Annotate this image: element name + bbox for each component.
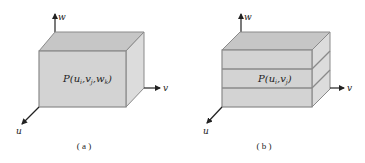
u-axis-a (22, 107, 39, 124)
v-axis-label-a: v (163, 83, 168, 93)
u-axis-label-b: u (203, 126, 209, 136)
panel-b: w P(ui,vj) v u ( b ) (203, 12, 352, 151)
w-axis-label-a: w (58, 12, 66, 22)
u-axis-label-a: u (16, 126, 22, 136)
caption-b: ( b ) (257, 141, 272, 151)
u-axis-b (207, 107, 222, 123)
w-axis-label-b: w (244, 12, 252, 22)
box-top-face-b (222, 32, 330, 50)
v-axis-label-b: v (347, 83, 352, 93)
figure-canvas: w P(ui,vj,wk) v u ( a ) w P(u (0, 0, 365, 163)
caption-a: ( a ) (77, 141, 92, 151)
panel-a: w P(ui,vj,wk) v u ( a ) (16, 12, 168, 151)
